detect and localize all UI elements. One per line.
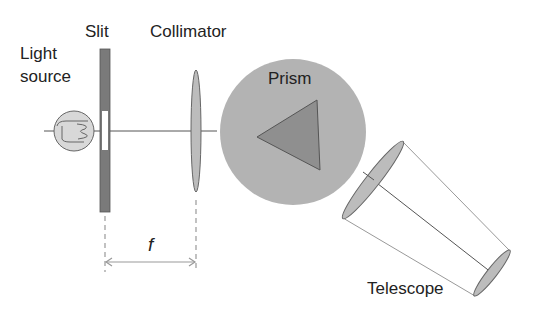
prism-label: Prism [268, 69, 311, 89]
slit-icon [100, 49, 110, 212]
light-source-icon [54, 111, 94, 151]
spectrometer-diagram [0, 0, 537, 314]
dimension-arrow [106, 258, 195, 266]
focal-length-label: f [148, 235, 153, 255]
light-source-label-2: source [20, 67, 71, 87]
collimator-label: Collimator [150, 22, 227, 42]
telescope-label: Telescope [367, 279, 444, 299]
collimator-lens-icon [191, 70, 201, 192]
slit-label: Slit [85, 22, 109, 42]
light-source-label: Light [20, 44, 57, 64]
telescope-icon [337, 137, 513, 299]
